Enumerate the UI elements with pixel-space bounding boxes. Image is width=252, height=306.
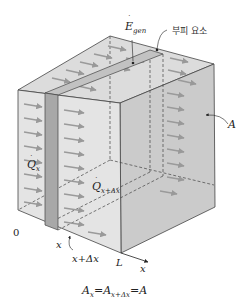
- qxdx-dot-accent: ·: [95, 173, 98, 182]
- x-position-label: x: [56, 239, 62, 250]
- L-label: L: [115, 257, 123, 268]
- x-axis: [121, 253, 148, 262]
- volume-element-dot: [156, 49, 159, 52]
- area-label: A: [227, 118, 236, 131]
- egen-label: Egen: [124, 20, 147, 35]
- x-plus-dx-label: x+Δx: [72, 253, 99, 264]
- plane-wall-diagram: Egen · 부피 요소 A Qx · Qx+Δx · 0 x x+Δx L x…: [0, 0, 252, 306]
- egen-dot-accent: ·: [128, 11, 131, 20]
- egen-dot: [132, 62, 135, 65]
- xdx-leader: [69, 236, 73, 250]
- qx-dot-accent: ·: [30, 151, 33, 160]
- x-axis-label: x: [140, 263, 146, 274]
- origin-label: 0: [13, 227, 19, 238]
- volume-element-leader: [157, 30, 167, 49]
- volume-element-label: 부피 요소: [172, 26, 207, 36]
- area-equation: Ax=Ax+Δx=A: [81, 284, 147, 299]
- volume-element-front: [45, 93, 58, 230]
- wall-front-face: [18, 90, 121, 253]
